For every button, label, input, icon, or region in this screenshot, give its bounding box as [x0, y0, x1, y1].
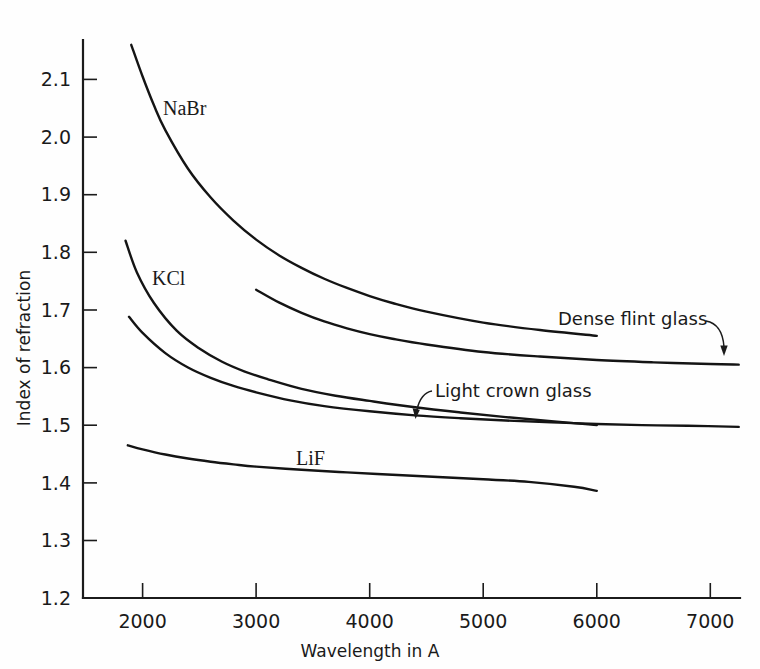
y-tick-label-1.8: 1.8: [41, 241, 71, 263]
x-tick-label-7000: 7000: [686, 610, 734, 632]
x-tick-label-5000: 5000: [459, 610, 507, 632]
y-tick-label-1.6: 1.6: [41, 356, 71, 378]
y-tick-marks: [83, 79, 97, 540]
curves-group: [126, 45, 739, 491]
y-tick-label-1.2: 1.2: [41, 587, 71, 609]
x-tick-label-2000: 2000: [118, 610, 166, 632]
y-tick-label-1.9: 1.9: [41, 183, 71, 205]
curve-lif: [128, 445, 597, 491]
x-axis-title: Wavelength in A: [301, 641, 440, 661]
y-axis-title: Index of refraction: [14, 270, 34, 426]
annotation-label-light-crown-glass: Light crown glass: [435, 380, 592, 401]
chart-canvas: 2.1 2.0 1.9 1.8 1.7 1.6 1.5 1.4 1.3 1.2 …: [0, 0, 760, 669]
annotation-arrowhead-dense-flint-glass: [720, 346, 727, 357]
y-tick-label-2.1: 2.1: [41, 68, 71, 90]
annotation-light-crown-glass: Light crown glass: [413, 380, 592, 419]
x-tick-marks: [143, 583, 711, 598]
y-tick-label-2.0: 2.0: [41, 126, 71, 148]
x-tick-labels: 2000 3000 4000 5000 6000 7000: [118, 610, 734, 632]
annotation-arrowhead-light-crown-glass: [413, 408, 420, 419]
curve-label-kcl: KCl: [152, 267, 186, 289]
y-tick-label-1.7: 1.7: [41, 299, 71, 321]
annotation-label-dense-flint-glass: Dense flint glass: [558, 308, 707, 329]
annotation-dense-flint-glass: Dense flint glass: [558, 308, 728, 356]
annotation-leader-dense-flint-glass: [706, 321, 724, 347]
y-tick-labels: 2.1 2.0 1.9 1.8 1.7 1.6 1.5 1.4 1.3 1.2: [41, 68, 71, 609]
x-tick-label-4000: 4000: [346, 610, 394, 632]
curve-label-nabr: NaBr: [163, 97, 207, 119]
y-tick-label-1.5: 1.5: [41, 414, 71, 436]
y-tick-label-1.3: 1.3: [41, 529, 71, 551]
curve-label-lif: LiF: [296, 447, 325, 469]
curve-nabr: [131, 45, 597, 336]
x-tick-label-6000: 6000: [573, 610, 621, 632]
dispersion-chart-figure: 2.1 2.0 1.9 1.8 1.7 1.6 1.5 1.4 1.3 1.2 …: [0, 0, 760, 669]
y-tick-label-1.4: 1.4: [41, 472, 71, 494]
x-tick-label-3000: 3000: [232, 610, 280, 632]
